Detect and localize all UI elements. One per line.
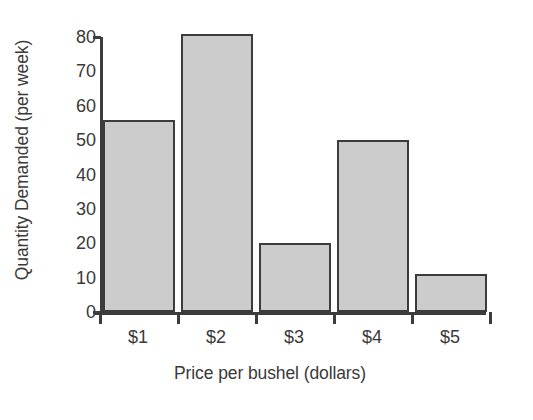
y-tick-label: 80	[54, 28, 96, 46]
bar-price-3	[259, 243, 331, 312]
y-tick-label: 30	[54, 200, 96, 218]
y-axis-tick	[93, 311, 101, 314]
y-tick-label: 60	[54, 97, 96, 115]
y-tick-label: 50	[54, 131, 96, 149]
x-axis-tick	[255, 312, 258, 324]
x-tick-label: $3	[284, 326, 304, 348]
x-tick-label: $2	[206, 326, 226, 348]
x-axis-title: Price per bushel (dollars)	[60, 362, 480, 384]
x-tick-label: $4	[362, 326, 382, 348]
x-axis-tick	[411, 312, 414, 324]
plot-area	[100, 30, 500, 320]
x-axis-tick	[99, 312, 102, 324]
y-tick-label: 70	[54, 62, 96, 80]
x-axis-tick	[333, 312, 336, 324]
y-axis-tick	[93, 36, 101, 39]
bar-chart: Quantity Demanded (per week) 0 10 20 30 …	[0, 0, 533, 420]
x-tick-label: $1	[128, 326, 148, 348]
x-axis-tick-labels: $1 $2 $3 $4 $5	[100, 326, 500, 352]
y-tick-label: 0	[54, 303, 96, 321]
x-axis-tick	[177, 312, 180, 324]
x-tick-label: $5	[440, 326, 460, 348]
y-axis-tick-labels: 0 10 20 30 40 50 60 70 80	[54, 0, 96, 420]
bar-price-5	[415, 274, 487, 312]
y-axis-title: Quantity Demanded (per week)	[0, 0, 44, 320]
x-axis-tick	[489, 312, 492, 324]
y-tick-label: 40	[54, 166, 96, 184]
bar-price-4	[337, 140, 409, 312]
bars-layer	[100, 30, 500, 320]
bar-price-2	[181, 34, 253, 312]
bar-price-1	[103, 120, 175, 313]
y-tick-label: 20	[54, 234, 96, 252]
y-tick-label: 10	[54, 269, 96, 287]
